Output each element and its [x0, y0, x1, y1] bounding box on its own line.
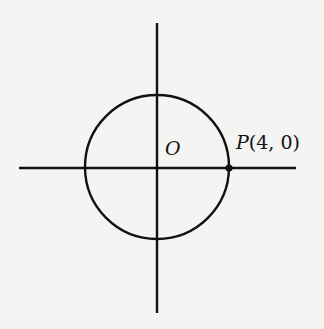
- point-p-name: P: [236, 131, 249, 153]
- point-p-coords: (4, 0): [249, 131, 300, 153]
- origin-label: O: [165, 139, 181, 158]
- diagram-canvas: [0, 0, 324, 329]
- point-p-dot: [225, 164, 232, 171]
- origin-label-text: O: [165, 137, 181, 159]
- point-p-label: P(4, 0): [236, 133, 300, 152]
